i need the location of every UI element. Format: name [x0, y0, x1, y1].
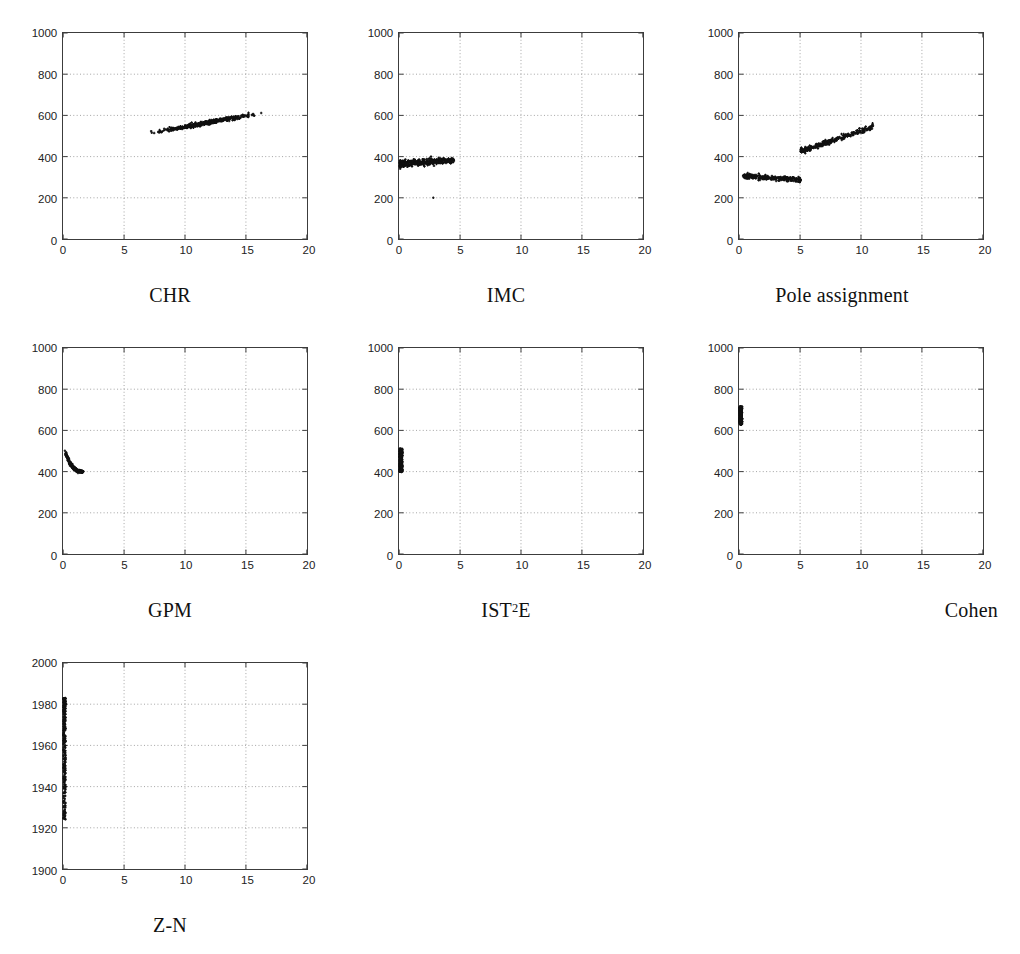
x-tick-label: 10: [516, 244, 529, 256]
x-tick-label: 5: [457, 244, 463, 256]
y-tick-label: 200: [38, 508, 57, 520]
scatter-panel-z-n: 19001920194019601980200005101520Z-N: [0, 652, 340, 954]
scatter-panel-pole-assignment: 0200400600800100005101520Pole assignment: [672, 22, 1012, 337]
y-tick-label: 1980: [32, 699, 57, 711]
plot-area-cohen: 0200400600800100005101520: [738, 347, 984, 555]
panel-caption-cohen: Cohen: [672, 599, 1012, 622]
y-tick-label: 1000: [32, 27, 57, 39]
y-tick-label: 200: [374, 193, 393, 205]
scatter-panel-chr: 0200400600800100005101520CHR: [0, 22, 340, 337]
plot-area-ist2e: 0200400600800100005101520: [398, 347, 644, 555]
panel-caption-chr: CHR: [0, 284, 340, 307]
tick-labels-imc: 0200400600800100005101520: [399, 33, 643, 239]
scatter-panel-ist2e: 0200400600800100005101520IST2E: [336, 337, 676, 652]
y-tick-label: 1900: [32, 865, 57, 877]
x-tick-label: 10: [856, 559, 869, 571]
y-tick-label: 800: [714, 69, 733, 81]
x-tick-label: 20: [979, 244, 992, 256]
y-tick-label: 400: [38, 467, 57, 479]
y-tick-label: 1000: [708, 342, 733, 354]
y-tick-label: 0: [51, 550, 57, 562]
plot-area-imc: 0200400600800100005101520: [398, 32, 644, 240]
y-tick-label: 200: [714, 508, 733, 520]
x-tick-label: 10: [180, 874, 193, 886]
y-tick-label: 600: [714, 110, 733, 122]
x-tick-label: 15: [917, 559, 930, 571]
x-tick-label: 15: [577, 559, 590, 571]
x-tick-label: 0: [60, 559, 66, 571]
x-tick-label: 5: [121, 244, 127, 256]
x-tick-label: 20: [639, 559, 652, 571]
scatter-panel-cohen: 0200400600800100005101520Cohen: [672, 337, 1012, 652]
y-tick-label: 800: [714, 384, 733, 396]
tick-labels-cohen: 0200400600800100005101520: [739, 348, 983, 554]
y-tick-label: 200: [374, 508, 393, 520]
panel-caption-z-n: Z-N: [0, 914, 340, 937]
plot-area-chr: 0200400600800100005101520: [62, 32, 308, 240]
y-tick-label: 1000: [708, 27, 733, 39]
x-tick-label: 15: [241, 874, 254, 886]
y-tick-label: 2000: [32, 657, 57, 669]
x-tick-label: 15: [917, 244, 930, 256]
x-tick-label: 10: [856, 244, 869, 256]
tick-labels-gpm: 0200400600800100005101520: [63, 348, 307, 554]
y-tick-label: 600: [38, 110, 57, 122]
x-tick-label: 5: [457, 559, 463, 571]
y-tick-label: 600: [38, 425, 57, 437]
y-tick-label: 1920: [32, 823, 57, 835]
x-tick-label: 5: [797, 559, 803, 571]
x-tick-label: 0: [396, 559, 402, 571]
tick-labels-chr: 0200400600800100005101520: [63, 33, 307, 239]
y-tick-label: 400: [714, 467, 733, 479]
tick-labels-z-n: 19001920194019601980200005101520: [63, 663, 307, 869]
tick-labels-ist2e: 0200400600800100005101520: [399, 348, 643, 554]
panel-caption-pole-assignment: Pole assignment: [672, 284, 1012, 307]
x-tick-label: 20: [979, 559, 992, 571]
y-tick-label: 800: [38, 384, 57, 396]
y-tick-label: 800: [374, 69, 393, 81]
y-tick-label: 600: [374, 110, 393, 122]
scatter-panel-imc: 0200400600800100005101520IMC: [336, 22, 676, 337]
x-tick-label: 20: [303, 874, 316, 886]
y-tick-label: 0: [51, 235, 57, 247]
y-tick-label: 800: [38, 69, 57, 81]
y-tick-label: 400: [374, 467, 393, 479]
x-tick-label: 20: [303, 559, 316, 571]
y-tick-label: 1940: [32, 782, 57, 794]
x-tick-label: 10: [180, 244, 193, 256]
y-tick-label: 400: [38, 152, 57, 164]
caption-tail: E: [518, 599, 530, 621]
panel-caption-imc: IMC: [336, 284, 676, 307]
x-tick-label: 0: [736, 559, 742, 571]
x-tick-label: 0: [60, 874, 66, 886]
y-tick-label: 1000: [32, 342, 57, 354]
y-tick-label: 0: [727, 235, 733, 247]
scatter-panel-gpm: 0200400600800100005101520GPM: [0, 337, 340, 652]
y-tick-label: 200: [714, 193, 733, 205]
x-tick-label: 0: [396, 244, 402, 256]
panel-caption-gpm: GPM: [0, 599, 340, 622]
y-tick-label: 0: [387, 550, 393, 562]
figure-panel-grid: 0200400600800100005101520CHR020040060080…: [0, 0, 1020, 954]
x-tick-label: 5: [797, 244, 803, 256]
x-tick-label: 20: [639, 244, 652, 256]
y-tick-label: 1000: [368, 342, 393, 354]
x-tick-label: 5: [121, 559, 127, 571]
y-tick-label: 1960: [32, 740, 57, 752]
panel-caption-ist2e: IST2E: [336, 599, 676, 622]
x-tick-label: 15: [241, 559, 254, 571]
x-tick-label: 5: [121, 874, 127, 886]
x-tick-label: 15: [241, 244, 254, 256]
x-tick-label: 0: [60, 244, 66, 256]
y-tick-label: 800: [374, 384, 393, 396]
y-tick-label: 1000: [368, 27, 393, 39]
caption-base: IST: [481, 599, 512, 621]
plot-area-pole-assignment: 0200400600800100005101520: [738, 32, 984, 240]
plot-area-z-n: 19001920194019601980200005101520: [62, 662, 308, 870]
y-tick-label: 400: [374, 152, 393, 164]
y-tick-label: 400: [714, 152, 733, 164]
x-tick-label: 10: [516, 559, 529, 571]
y-tick-label: 600: [714, 425, 733, 437]
y-tick-label: 0: [387, 235, 393, 247]
x-tick-label: 15: [577, 244, 590, 256]
